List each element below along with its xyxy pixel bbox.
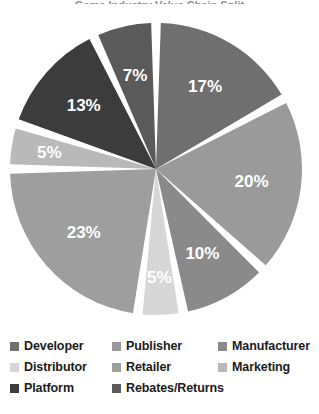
legend-item-label: Rebates/Returns <box>126 381 224 395</box>
pie-slice-value-label: 7% <box>123 66 148 85</box>
legend-swatch-icon <box>10 384 19 393</box>
legend-item-label: Marketing <box>232 360 290 374</box>
legend-item-publisher[interactable]: Publisher <box>106 336 215 356</box>
legend-swatch-icon <box>218 342 227 351</box>
chart-legend: Developer Publisher Manufacturer Distrib… <box>0 334 319 412</box>
chart-title-clipped: Game Industry Value Chain Split <box>0 0 319 4</box>
pie-slice-value-label: 10% <box>185 244 219 263</box>
legend-item-rebates-returns[interactable]: Rebates/Returns <box>106 378 215 398</box>
legend-swatch-icon <box>10 342 19 351</box>
legend-swatch-icon <box>218 363 227 372</box>
legend-item-label: Platform <box>24 381 74 395</box>
pie-slice-value-label: 20% <box>235 172 269 191</box>
legend-item-label: Developer <box>24 339 84 353</box>
legend-item-manufacturer[interactable]: Manufacturer <box>215 336 319 356</box>
legend-row: Developer Publisher Manufacturer <box>0 336 319 356</box>
legend-swatch-icon <box>10 363 19 372</box>
legend-swatch-icon <box>112 384 121 393</box>
pie-slice-value-label: 5% <box>37 143 62 162</box>
legend-row: Platform Rebates/Returns <box>0 378 319 398</box>
legend-item-label: Publisher <box>126 339 182 353</box>
legend-swatch-icon <box>112 342 121 351</box>
legend-item-retailer[interactable]: Retailer <box>106 357 215 377</box>
pie-slice-value-label: 13% <box>67 96 101 115</box>
pie-slice-value-label: 23% <box>67 223 101 242</box>
pie-slice-value-label: 17% <box>188 77 222 96</box>
legend-item-label: Retailer <box>126 360 171 374</box>
legend-item-distributor[interactable]: Distributor <box>0 357 106 377</box>
legend-item-platform[interactable]: Platform <box>0 378 106 398</box>
legend-item-label: Distributor <box>24 360 87 374</box>
legend-swatch-icon <box>112 363 121 372</box>
pie-plot-area: 17%20%10%5%23%5%13%7% <box>9 22 303 316</box>
pie-svg: 17%20%10%5%23%5%13%7% <box>9 22 303 316</box>
legend-item-developer[interactable]: Developer <box>0 336 106 356</box>
legend-item-marketing[interactable]: Marketing <box>215 357 319 377</box>
legend-item-label: Manufacturer <box>232 339 310 353</box>
pie-chart-figure: Game Industry Value Chain Split 17%20%10… <box>0 0 319 414</box>
legend-row: Distributor Retailer Marketing <box>0 357 319 377</box>
pie-slice-value-label: 5% <box>147 268 172 287</box>
